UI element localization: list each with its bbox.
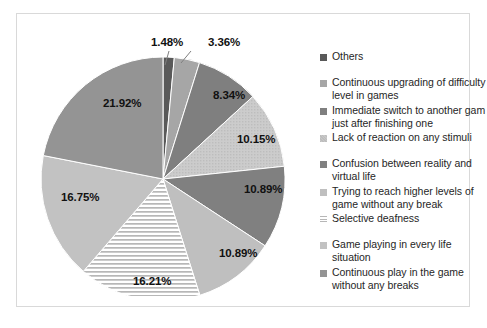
legend-item-label: Immediate switch to another gam just aft…	[332, 104, 487, 130]
legend-swatch-icon	[320, 108, 327, 115]
legend-swatch-icon	[320, 189, 327, 196]
legend-item-label: Continuous play in the game without any …	[332, 266, 487, 292]
legend-item[interactable]: Lack of reaction on any stimuli	[320, 131, 487, 144]
pie-slices	[41, 57, 285, 296]
legend-swatch-icon	[320, 135, 327, 142]
legend-item[interactable]: Game playing in every life situation	[320, 238, 487, 264]
legend-swatch-icon	[320, 242, 327, 249]
legend-item[interactable]: Confusion between reality and virtual li…	[320, 157, 487, 183]
legend-item[interactable]: Trying to reach higher levels of game wi…	[320, 185, 487, 211]
legend-item-label: Selective deafness	[332, 212, 419, 225]
pie-slice-value-label: 16.21%	[133, 275, 171, 287]
legend-swatch-icon	[320, 80, 327, 87]
pie-slice-value-label: 10.89%	[219, 247, 257, 259]
pie-slice-value-label: 10.15%	[237, 133, 275, 145]
legend-item-label: Game playing in every life situation	[332, 238, 487, 264]
pie-slice-value-label: 3.36%	[208, 36, 240, 48]
chart-frame: 1.48%3.36%8.34%10.15%10.89%10.89%16.21%1…	[16, 13, 470, 307]
legend-item[interactable]: Continuous upgrading of difficulty level…	[320, 76, 487, 102]
legend-swatch-icon	[320, 161, 327, 168]
legend-item-label: Others	[332, 50, 363, 63]
pie-plot-area: 1.48%3.36%8.34%10.15%10.89%10.89%16.21%1…	[41, 31, 301, 296]
legend-item-label: Confusion between reality and virtual li…	[332, 157, 487, 183]
legend-item-label: Lack of reaction on any stimuli	[332, 131, 472, 144]
pie-slice-value-label: 8.34%	[213, 89, 245, 101]
chart-legend: OthersContinuous upgrading of difficulty…	[320, 50, 487, 293]
pie-slice-value-label: 1.48%	[151, 36, 183, 48]
legend-item[interactable]: Immediate switch to another gam just aft…	[320, 104, 487, 130]
legend-item-label: Trying to reach higher levels of game wi…	[332, 185, 487, 211]
pie-chart-figure: 1.48%3.36%8.34%10.15%10.89%10.89%16.21%1…	[0, 0, 487, 328]
legend-swatch-icon	[320, 54, 327, 61]
legend-item[interactable]: Others	[320, 50, 487, 63]
legend-swatch-icon	[320, 270, 327, 277]
legend-item-label: Continuous upgrading of difficulty level…	[332, 76, 487, 102]
legend-item[interactable]: Continuous play in the game without any …	[320, 266, 487, 292]
pie-slice-value-label: 21.92%	[103, 97, 141, 109]
pie-slice-value-label: 10.89%	[244, 183, 282, 195]
legend-swatch-icon	[320, 216, 327, 223]
legend-item[interactable]: Selective deafness	[320, 212, 487, 225]
pie-slice-value-label: 16.75%	[61, 191, 99, 203]
pie-svg	[41, 31, 301, 296]
